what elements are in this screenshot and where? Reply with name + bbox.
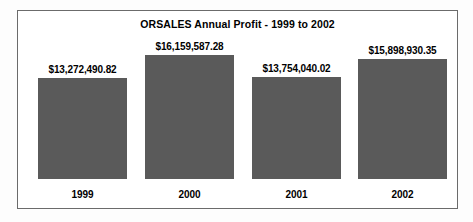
bar-rect (358, 59, 447, 179)
chart-page: ORSALES Annual Profit - 1999 to 2002 $13… (0, 0, 473, 222)
bar-rect (38, 78, 127, 179)
bar-group: $13,754,040.022001 (252, 11, 341, 208)
plot-area: $13,272,490.821999$16,159,587.282000$13,… (18, 11, 457, 208)
bar-rect (252, 77, 341, 179)
bar-category-label: 2002 (391, 189, 413, 200)
bar-value-label: $16,159,587.28 (155, 41, 223, 52)
bar-group: $16,159,587.282000 (145, 11, 234, 208)
bar-group: $13,272,490.821999 (38, 11, 127, 208)
bar-category-label: 1999 (71, 189, 93, 200)
bar-value-label: $15,898,930.35 (368, 45, 436, 56)
bar-value-label: $13,754,040.02 (262, 63, 330, 74)
bar-group: $15,898,930.352002 (358, 11, 447, 208)
bar-rect (145, 55, 234, 179)
bar-category-label: 2001 (285, 189, 307, 200)
bar-category-label: 2000 (178, 189, 200, 200)
chart-frame: ORSALES Annual Profit - 1999 to 2002 $13… (17, 10, 458, 209)
bar-value-label: $13,272,490.82 (48, 64, 116, 75)
